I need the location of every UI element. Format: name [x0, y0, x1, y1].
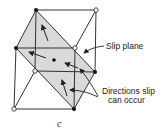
slip-plane-label: Slip plane: [106, 42, 143, 51]
lattice-diagram: [0, 0, 162, 132]
directions-label-line2: can occur: [108, 96, 145, 105]
lattice-nodes: [12, 8, 98, 111]
figure-caption: c: [57, 118, 61, 129]
